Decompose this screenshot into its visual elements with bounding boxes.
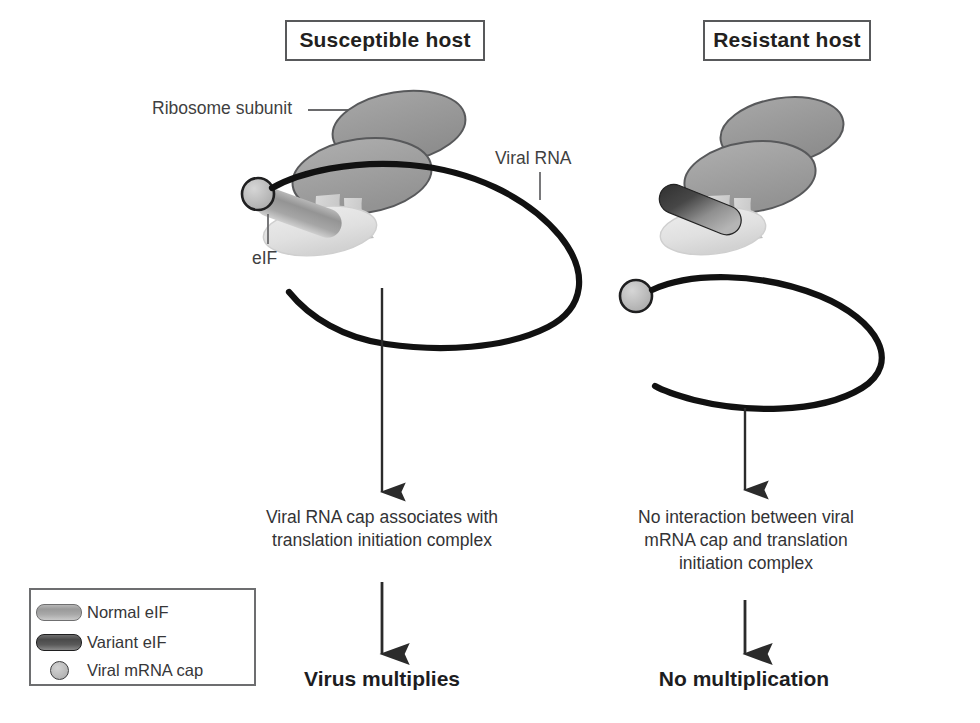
legend-label-viral-mrna-cap: Viral mRNA cap bbox=[87, 661, 203, 680]
caption-susceptible-host: Viral RNA cap associates with translatio… bbox=[262, 506, 502, 552]
legend-item-normal-eif: Normal eIF bbox=[31, 597, 254, 627]
caption-resistant-host: No interaction between viral mRNA cap an… bbox=[628, 506, 864, 575]
susceptible-host-complex bbox=[242, 82, 579, 348]
label-viral-rna: Viral RNA bbox=[495, 148, 572, 168]
viral-rna-strand-right bbox=[652, 277, 882, 409]
panel-header-susceptible-host: Susceptible host bbox=[285, 20, 485, 61]
viral-mrna-cap-swatch-icon bbox=[31, 661, 87, 680]
viral-mrna-cap-bound bbox=[242, 178, 274, 210]
variant-eif-swatch-icon bbox=[31, 634, 87, 651]
legend-label-normal-eif: Normal eIF bbox=[87, 603, 169, 622]
outcome-susceptible-host: Virus multiplies bbox=[262, 667, 502, 691]
normal-eif-swatch-icon bbox=[31, 604, 87, 621]
outcome-resistant-host: No multiplication bbox=[624, 667, 864, 691]
figure-root: Susceptible host Resistant host Ribosome… bbox=[0, 0, 980, 723]
legend-box: Normal eIF Variant eIF Viral mRNA cap bbox=[29, 588, 256, 686]
label-ribosome-subunit: Ribosome subunit bbox=[152, 98, 292, 118]
legend-item-variant-eif: Variant eIF bbox=[31, 627, 254, 657]
viral-mrna-cap-free bbox=[620, 280, 652, 312]
label-eif: eIF bbox=[252, 248, 277, 268]
resistant-host-complex bbox=[620, 89, 882, 409]
legend-label-variant-eif: Variant eIF bbox=[87, 633, 166, 652]
panel-header-resistant-host: Resistant host bbox=[703, 20, 871, 61]
legend-item-viral-mrna-cap: Viral mRNA cap bbox=[31, 655, 254, 685]
